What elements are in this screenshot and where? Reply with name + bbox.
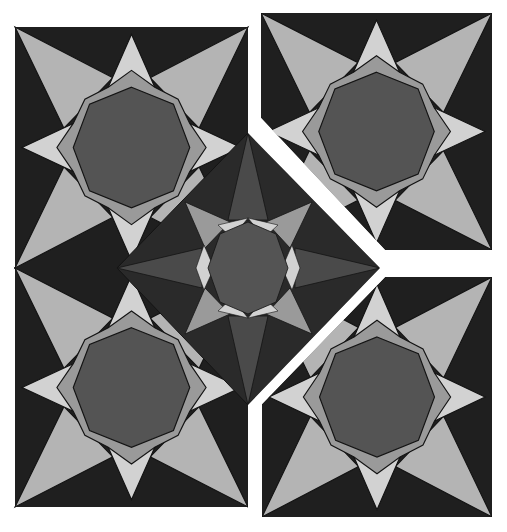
star-tessellation-canvas (0, 0, 507, 532)
